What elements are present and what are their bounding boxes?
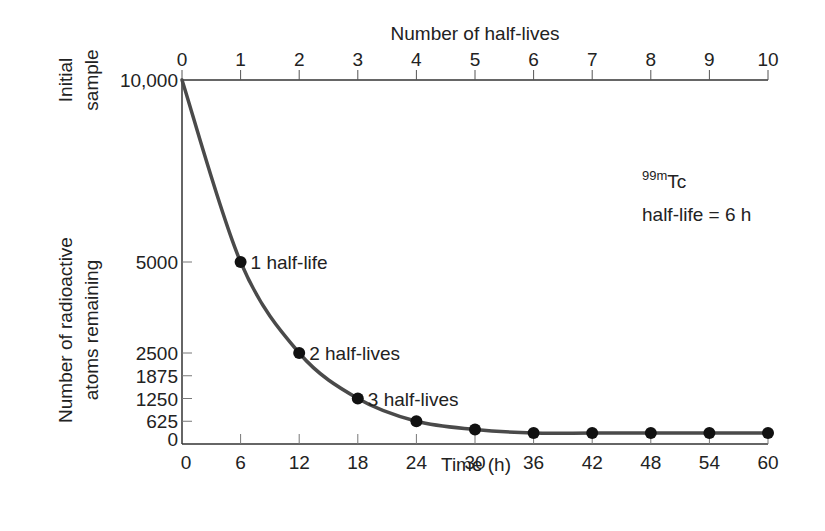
y-tick-label: 625	[146, 411, 178, 432]
initial-sample-label-line2: sample	[81, 49, 102, 110]
x-tick-label: 0	[181, 452, 192, 473]
top-tick-label: 9	[704, 49, 715, 70]
y-tick-label: 10,000	[120, 70, 178, 91]
half-life-chart: 0612182430364248546001234567891006251250…	[0, 0, 825, 531]
x-tick-label: 48	[640, 452, 661, 473]
x-tick-label: 36	[523, 452, 544, 473]
half-life-point-label: 1 half-life	[251, 252, 328, 273]
x-tick-label: 54	[699, 452, 721, 473]
top-axis-title: Number of half-lives	[391, 23, 560, 44]
y-tick-label: 1250	[136, 389, 178, 410]
x-tick-label: 24	[406, 452, 428, 473]
y-tick-label: 1875	[136, 366, 178, 387]
y-tick-label: 5000	[136, 252, 178, 273]
x-tick-label: 60	[757, 452, 778, 473]
x-tick-label: 42	[582, 452, 603, 473]
data-point-marker	[645, 427, 657, 439]
top-tick-label: 7	[587, 49, 598, 70]
data-point-marker	[410, 415, 422, 427]
top-tick-label: 3	[353, 49, 364, 70]
data-point-marker	[235, 256, 247, 268]
half-life-point-label: 3 half-lives	[368, 389, 459, 410]
x-tick-label: 18	[347, 452, 368, 473]
data-point-marker	[469, 423, 481, 435]
data-point-marker	[586, 427, 598, 439]
top-tick-label: 8	[646, 49, 657, 70]
half-life-point-label: 2 half-lives	[309, 343, 400, 364]
top-tick-label: 10	[757, 49, 778, 70]
y-tick-label: 2500	[136, 343, 178, 364]
data-point-marker	[528, 427, 540, 439]
initial-sample-label-line1: Initial	[55, 58, 76, 102]
halflife-annotation: half-life = 6 h	[642, 204, 751, 225]
top-tick-label: 6	[528, 49, 539, 70]
top-tick-label: 5	[470, 49, 481, 70]
data-point-marker	[293, 347, 305, 359]
y-axis-title-line2: atoms remaining	[81, 260, 102, 400]
top-tick-label: 2	[294, 49, 305, 70]
y-axis-title-line1: Number of radioactive	[55, 237, 76, 423]
isotope-label: 99mTc	[642, 168, 686, 192]
isotope-superscript: 99m	[642, 168, 667, 183]
x-axis-title: Time (h)	[441, 454, 511, 475]
x-tick-label: 6	[235, 452, 246, 473]
top-tick-label: 4	[411, 49, 422, 70]
top-tick-label: 0	[177, 49, 188, 70]
isotope-symbol: Tc	[667, 171, 686, 192]
x-tick-label: 12	[289, 452, 310, 473]
data-point-marker	[762, 427, 774, 439]
data-point-marker	[352, 393, 364, 405]
top-tick-label: 1	[235, 49, 246, 70]
data-point-marker	[703, 427, 715, 439]
